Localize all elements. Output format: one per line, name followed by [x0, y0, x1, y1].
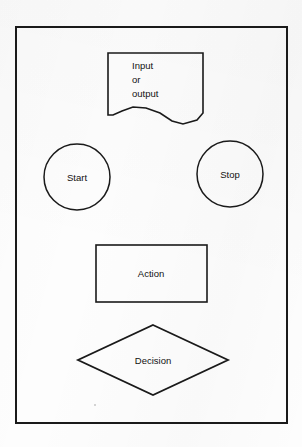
scan-speck	[94, 404, 96, 406]
action-label: Action	[138, 268, 164, 279]
decision-label: Decision	[135, 355, 171, 366]
input-output-label-line-3: output	[132, 88, 159, 99]
input-output-label-line-2: or	[132, 74, 140, 85]
start-label: Start	[67, 172, 87, 183]
stop-label: Stop	[220, 169, 240, 180]
flowchart-figure: Input or output Start Stop Action Decisi…	[0, 0, 302, 447]
input-output-label-line-1: Input	[132, 60, 153, 71]
